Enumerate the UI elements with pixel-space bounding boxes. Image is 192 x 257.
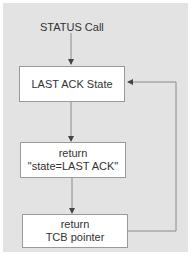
node-return-tcb: return TCB pointer [22,214,128,248]
node-text: "state=LAST ACK" [28,160,118,173]
node-return-state: return "state=LAST ACK" [20,142,126,178]
start-label: STATUS Call [40,21,102,33]
node-last-ack-state: LAST ACK State [19,66,125,102]
arrow-feedback-loop [128,82,176,231]
node-text: return [59,147,88,160]
node-text: LAST ACK State [31,78,112,91]
node-text: return [61,218,90,231]
node-text: TCB pointer [46,231,105,244]
